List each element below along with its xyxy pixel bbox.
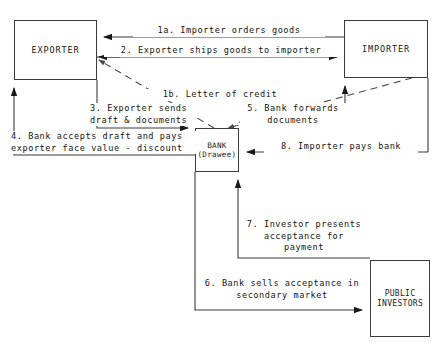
edge-label-step-6: 6. Bank sells acceptance in secondary ma… xyxy=(198,278,366,301)
node-bank-label: BANK (Drawee) xyxy=(198,141,237,160)
node-public-investors-label: PUBLIC INVESTORS xyxy=(377,289,423,309)
edge-label-step-2: 2. Exporter ships goods to importer xyxy=(104,45,338,57)
node-exporter-label: EXPORTER xyxy=(31,45,79,56)
edge-label-step-8: 8. Importer pays bank xyxy=(264,141,418,153)
edge-label-step-5: 5. Bank forwards documents xyxy=(240,103,346,126)
edge-label-step-1b: 1b. Letter of credit xyxy=(145,89,295,101)
edge-label-step-4: 4. Bank accepts draft and pays exporter … xyxy=(10,131,196,154)
node-public-investors[interactable]: PUBLIC INVESTORS xyxy=(370,260,430,337)
node-exporter[interactable]: EXPORTER xyxy=(14,20,97,80)
edge-label-step-3: 3. Exporter sends draft & documents xyxy=(89,103,195,126)
edge-label-step-1a: 1a. Importer orders goods xyxy=(133,25,325,37)
node-bank[interactable]: BANK (Drawee) xyxy=(195,128,239,172)
edge-label-step-7: 7. Investor presents acceptance for paym… xyxy=(241,219,367,254)
node-importer-label: IMPORTER xyxy=(362,44,410,55)
trade-finance-flow-diagram: EXPORTER IMPORTER BANK (Drawee) PUBLIC I… xyxy=(0,0,442,353)
node-importer[interactable]: IMPORTER xyxy=(344,20,428,78)
